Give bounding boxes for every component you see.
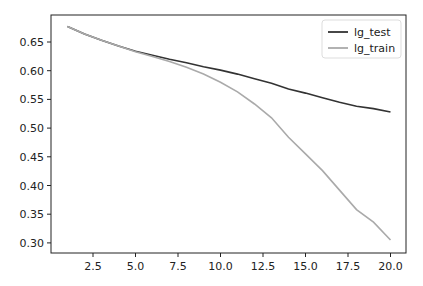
y-tick-label: 0.35	[20, 208, 45, 221]
y-tick-label: 0.40	[20, 180, 45, 193]
legend: lg_testlg_train	[322, 20, 401, 58]
legend-label-lg-test: lg_test	[354, 26, 391, 39]
x-tick-label: 17.5	[336, 260, 361, 273]
plot-area	[68, 27, 391, 241]
line-chart: 2.55.07.510.012.515.017.520.00.300.350.4…	[0, 0, 423, 286]
x-tick-label: 15.0	[293, 260, 318, 273]
x-tick-label: 20.0	[378, 260, 403, 273]
legend-label-lg-train: lg_train	[354, 42, 395, 55]
y-tick-label: 0.55	[20, 93, 45, 106]
y-tick-label: 0.50	[20, 122, 45, 135]
series-line-lg-train	[68, 27, 391, 241]
x-tick-label: 7.5	[169, 260, 187, 273]
y-tick-label: 0.45	[20, 151, 45, 164]
y-tick-label: 0.65	[20, 36, 45, 49]
y-tick-label: 0.60	[20, 65, 45, 78]
x-tick-label: 10.0	[208, 260, 233, 273]
x-tick-label: 2.5	[84, 260, 102, 273]
x-tick-label: 5.0	[127, 260, 145, 273]
y-tick-label: 0.30	[20, 237, 45, 250]
x-tick-label: 12.5	[251, 260, 276, 273]
